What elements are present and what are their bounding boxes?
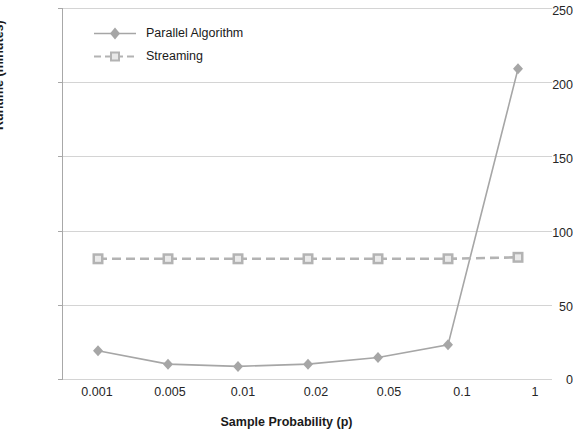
chart-legend: Parallel Algorithm Streaming (92, 22, 282, 68)
x-tick-label-0001: 0.001 (62, 386, 132, 399)
x-tick-label-01: 0.1 (427, 386, 497, 399)
legend-marker-diamond-icon (92, 22, 138, 45)
y-axis-title: Runtime (minutes) (0, 20, 6, 130)
legend-item-streaming: Streaming (92, 45, 282, 68)
data-point-marker-inner (95, 256, 101, 262)
legend-item-parallel-algorithm: Parallel Algorithm (92, 22, 282, 45)
data-point-marker (303, 359, 313, 370)
data-point-marker (233, 361, 243, 372)
data-point-marker-inner (515, 254, 521, 260)
legend-marker-square-icon (92, 45, 138, 68)
data-point-marker (443, 339, 453, 350)
data-point-marker-inner (375, 256, 381, 262)
x-tick-label-0005: 0.005 (135, 386, 205, 399)
x-tick-label-002: 0.02 (281, 386, 351, 399)
x-tick-label-1: 1 (500, 386, 570, 399)
data-point-marker (373, 352, 383, 363)
x-tick-label-005: 0.05 (354, 386, 424, 399)
data-point-marker-inner (235, 256, 241, 262)
series-parallel-algorithm (93, 63, 523, 372)
data-point-marker (93, 345, 103, 356)
chart-container: Runtime (minutes) 0 50 100 150 200 250 0… (0, 0, 573, 443)
data-point-marker-inner (165, 256, 171, 262)
series-line (98, 69, 518, 367)
series-streaming (93, 252, 524, 264)
legend-label-parallel-algorithm: Parallel Algorithm (146, 26, 243, 40)
data-point-marker-inner (305, 256, 311, 262)
x-tick-label-001: 0.01 (208, 386, 278, 399)
data-point-marker (163, 359, 173, 370)
data-point-marker-inner (445, 256, 451, 262)
legend-label-streaming: Streaming (146, 49, 203, 63)
x-axis-title: Sample Probability (p) (0, 415, 573, 429)
data-point-marker (513, 63, 523, 74)
